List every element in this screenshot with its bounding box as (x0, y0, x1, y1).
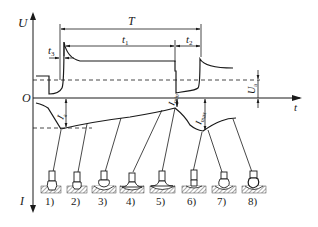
stage-1-droplet (41, 171, 61, 193)
stage-label: 1) (45, 195, 55, 208)
stage-label: 6) (187, 195, 197, 208)
stage-2-droplet (67, 172, 87, 193)
current-axis-label: I (19, 194, 25, 208)
voltage-axis-label: U (18, 15, 29, 30)
stage-labels: 1) 2) 3) 4) 5) 6) 7) 8) (45, 195, 258, 208)
vertical-axis (30, 12, 36, 213)
period-label: T (128, 14, 136, 28)
down-arrow-icon (30, 205, 36, 213)
t2-label: t2 (186, 33, 193, 47)
waveform-diagram: U I O t T t1 t2 t3 Ua Ia Imin Imax (0, 0, 318, 227)
t3-label: t3 (48, 44, 55, 58)
time-axis (33, 95, 302, 101)
stage-4-droplet (120, 173, 144, 193)
stage-label: 2) (71, 195, 81, 208)
stage-3-droplet (92, 171, 116, 193)
t1-label: t1 (122, 33, 129, 47)
time-axis-label: t (294, 101, 298, 113)
leader-lines (53, 108, 252, 172)
imin-label: Imin (166, 92, 180, 108)
ua-label: Ua (246, 84, 258, 94)
stage-label: 7) (217, 195, 227, 208)
stage-label: 4) (126, 195, 136, 208)
stage-label: 3) (98, 195, 108, 208)
up-arrow-icon (30, 12, 36, 20)
stage-label: 8) (248, 195, 258, 208)
stage-6-droplet (182, 170, 206, 193)
origin-label: O (22, 91, 31, 105)
stage-label: 5) (156, 195, 166, 208)
stage-7-droplet (212, 172, 236, 193)
stage-5-droplet (150, 171, 175, 193)
stage-8-droplet (242, 171, 266, 193)
voltage-waveform (36, 42, 233, 94)
transfer-stages (41, 170, 266, 193)
